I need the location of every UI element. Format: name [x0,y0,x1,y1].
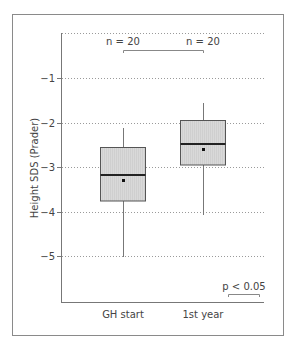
mean-marker [202,148,205,151]
iqr-box [181,121,226,166]
mean-marker [122,179,125,182]
y-tick-label: −5 [40,251,55,262]
n-label-gh-start: n = 20 [106,36,140,47]
y-axis-label: Height SDS (Prader) [29,118,40,218]
x-category-label-gh-start: GH start [102,309,144,320]
n-label-1st-year: n = 20 [186,36,220,47]
x-category-label-1st-year: 1st year [183,309,225,320]
y-tick-label: −3 [40,162,55,173]
p-value-label: p < 0.05 [222,281,265,292]
y-tick-label: −1 [40,73,55,84]
y-tick-label: −2 [40,118,55,129]
box-plot-chart: −1 −2 −3 −4 −5 Height SDS (Prader) n = 2… [0,0,299,348]
y-tick-label: −4 [40,207,55,218]
